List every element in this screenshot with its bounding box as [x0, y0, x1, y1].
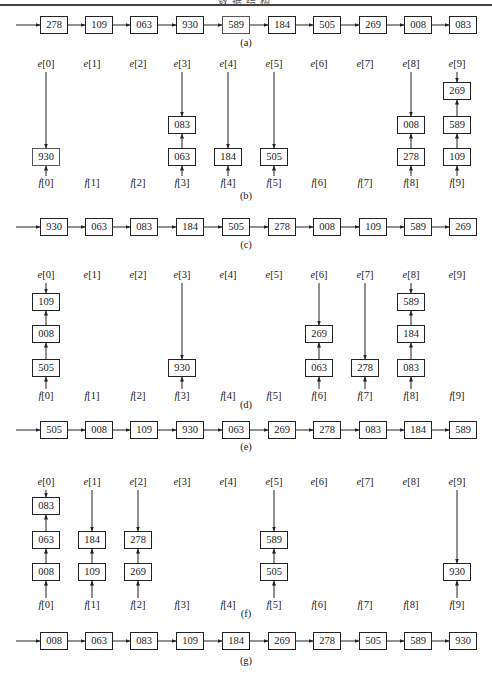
f-label-f-8: f[8]: [396, 599, 426, 610]
label-index: [1]: [88, 476, 100, 487]
label-index: [9]: [453, 58, 465, 69]
e-label-f-8: e[8]: [396, 476, 426, 487]
e-label-f-2: e[2]: [123, 476, 153, 487]
e-label-b-6: e[6]: [304, 58, 334, 69]
caption-c: (c): [226, 239, 266, 250]
e-label-f-9: e[9]: [442, 476, 472, 487]
bucket-node-f-9-0: 930: [443, 563, 471, 581]
bucket-node-b-9-1: 589: [443, 116, 471, 134]
f-label-f-9: f[9]: [442, 599, 472, 610]
bucket-node-f-2-0: 269: [124, 563, 152, 581]
f-label-d-1: f[1]: [77, 390, 107, 401]
f-label-b-3: f[3]: [167, 177, 197, 188]
f-label-f-2: f[2]: [123, 599, 153, 610]
e-label-d-1: e[1]: [77, 269, 107, 280]
f-label-d-6: f[6]: [304, 390, 334, 401]
label-index: [8]: [407, 476, 419, 487]
label-index: [2]: [133, 599, 145, 610]
chain-node-e-5: 269: [268, 421, 296, 439]
label-index: [1]: [88, 58, 100, 69]
e-label-b-8: e[8]: [396, 58, 426, 69]
e-label-d-4: e[4]: [213, 269, 243, 280]
radix-sort-figure: 数据结构 278109063930589184505269008083(a)e[…: [0, 0, 492, 680]
f-label-d-8: f[8]: [396, 390, 426, 401]
chain-node-g-3: 109: [176, 632, 204, 650]
label-index: [2]: [134, 476, 146, 487]
label-index: [7]: [361, 269, 373, 280]
chain-node-a-4: 589: [222, 16, 250, 34]
chain-node-c-2: 083: [130, 218, 158, 236]
label-index: [8]: [407, 58, 419, 69]
chain-node-g-2: 083: [130, 632, 158, 650]
chain-node-a-3: 930: [176, 16, 204, 34]
label-index: [6]: [314, 177, 326, 188]
label-index: [2]: [133, 177, 145, 188]
label-index: [2]: [133, 390, 145, 401]
chain-node-a-8: 008: [404, 16, 432, 34]
label-index: [4]: [224, 269, 236, 280]
label-index: [0]: [42, 269, 54, 280]
label-index: [8]: [406, 599, 418, 610]
bucket-node-b-9-2: 269: [443, 82, 471, 100]
caption-b: (b): [226, 190, 266, 201]
chain-node-e-1: 008: [85, 421, 113, 439]
chain-node-a-6: 505: [313, 16, 341, 34]
chain-node-g-7: 505: [359, 632, 387, 650]
chain-node-c-5: 278: [268, 218, 296, 236]
label-index: [3]: [178, 476, 190, 487]
bucket-node-f-1-0: 109: [78, 563, 106, 581]
e-label-b-5: e[5]: [259, 58, 289, 69]
chain-node-c-8: 589: [404, 218, 432, 236]
label-index: [2]: [134, 58, 146, 69]
chain-node-e-3: 930: [176, 421, 204, 439]
f-label-b-1: f[1]: [77, 177, 107, 188]
f-label-f-7: f[7]: [350, 599, 380, 610]
bucket-node-d-8-1: 184: [397, 325, 425, 343]
chain-node-e-2: 109: [130, 421, 158, 439]
bucket-node-b-9-0: 109: [443, 148, 471, 166]
label-index: [1]: [87, 599, 99, 610]
chain-node-a-1: 109: [85, 16, 113, 34]
caption-e: (e): [226, 441, 266, 452]
f-label-b-8: f[8]: [396, 177, 426, 188]
label-index: [5]: [269, 390, 281, 401]
chain-node-a-9: 083: [449, 16, 477, 34]
bucket-node-f-2-1: 278: [124, 531, 152, 549]
bucket-node-b-0-0: 930: [32, 148, 60, 166]
label-index: [8]: [406, 390, 418, 401]
label-index: [7]: [360, 390, 372, 401]
f-label-b-0: f[0]: [31, 177, 61, 188]
e-label-d-0: e[0]: [31, 269, 61, 280]
e-label-f-6: e[6]: [304, 476, 334, 487]
f-label-b-5: f[5]: [259, 177, 289, 188]
label-index: [7]: [361, 58, 373, 69]
label-index: [4]: [224, 58, 236, 69]
e-label-d-6: e[6]: [304, 269, 334, 280]
e-label-d-2: e[2]: [123, 269, 153, 280]
label-index: [5]: [270, 476, 282, 487]
chain-node-e-4: 063: [222, 421, 250, 439]
bucket-node-f-1-1: 184: [78, 531, 106, 549]
label-index: [0]: [41, 177, 53, 188]
f-label-d-2: f[2]: [123, 390, 153, 401]
label-index: [4]: [223, 177, 235, 188]
label-index: [9]: [452, 177, 464, 188]
chain-node-g-5: 269: [268, 632, 296, 650]
e-label-b-2: e[2]: [123, 58, 153, 69]
label-index: [6]: [314, 390, 326, 401]
e-label-d-3: e[3]: [167, 269, 197, 280]
label-index: [3]: [178, 58, 190, 69]
chain-node-e-7: 083: [359, 421, 387, 439]
chain-node-a-0: 278: [40, 16, 68, 34]
caption-a: (a): [226, 37, 266, 48]
bucket-node-b-4-0: 184: [214, 148, 242, 166]
bucket-node-d-8-2: 589: [397, 293, 425, 311]
label-index: [6]: [314, 599, 326, 610]
caption-d: (d): [226, 399, 266, 410]
label-index: [3]: [177, 177, 189, 188]
label-index: [0]: [41, 599, 53, 610]
bucket-node-b-8-0: 278: [397, 148, 425, 166]
bucket-node-f-0-0: 008: [32, 563, 60, 581]
label-index: [2]: [134, 269, 146, 280]
e-label-b-0: e[0]: [31, 58, 61, 69]
